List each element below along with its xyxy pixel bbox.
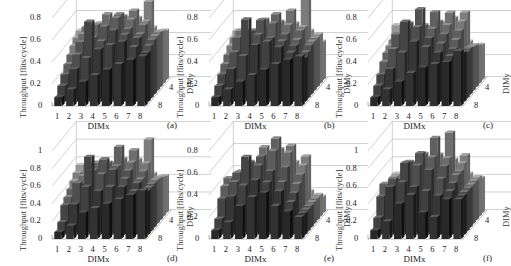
y-tick-label: 1 (38, 145, 42, 155)
y-axis-title: Throughput [flits/cycle] (334, 170, 344, 251)
chart-panel-a: 00.20.40.60.81234567848Throughput [flits… (0, 0, 158, 133)
y-tick-label: 0.2 (346, 215, 357, 225)
y-tick-label: 1 (354, 145, 358, 155)
x-tick-label: 6 (271, 111, 275, 121)
x-tick-label: 5 (102, 244, 106, 254)
x-tick-label: 6 (430, 244, 434, 254)
x-tick-label: 1 (55, 111, 59, 121)
y-tick-label: 0 (354, 100, 358, 110)
z-axis-title: DIMy (501, 73, 511, 94)
bars (211, 136, 326, 239)
y-tick-label: 0 (38, 233, 42, 243)
y-tick-label: 0.6 (30, 34, 41, 44)
x-tick-label: 7 (283, 244, 287, 254)
y-tick-label: 0.8 (346, 163, 357, 173)
x-tick-label: 1 (212, 111, 216, 121)
y-tick-label: 0.4 (187, 189, 198, 199)
x-tick-label: 5 (259, 111, 263, 121)
y-tick-label: 0.2 (30, 78, 41, 88)
x-tick-label: 3 (236, 111, 240, 121)
y-tick-label: 0.8 (187, 145, 198, 155)
y-tick-label: 0.6 (187, 34, 198, 44)
x-tick-label: 5 (418, 111, 422, 121)
bars (370, 7, 485, 106)
x-tick-label: 7 (442, 111, 446, 121)
y-tick-label: 0.4 (30, 198, 41, 208)
x-tick-label: 8 (295, 111, 299, 121)
x-tick-label: 3 (395, 111, 399, 121)
y-tick-label: 0.2 (346, 78, 357, 88)
y-tick-label: 0.8 (30, 12, 41, 22)
y-tick-label: 0.4 (30, 56, 41, 66)
x-axis-title: DIMx (404, 121, 426, 131)
x-tick-label: 8 (454, 244, 458, 254)
x-tick-label: 6 (114, 244, 118, 254)
y-tick-label: 0 (354, 233, 358, 243)
x-tick-label: 4 (248, 244, 252, 254)
y-tick-label: 0.4 (346, 56, 357, 66)
panel-label: (f) (483, 253, 492, 263)
x-tick-label: 4 (407, 244, 411, 254)
y-tick-label: 0.4 (187, 56, 198, 66)
z-axis-title: DIMy (501, 206, 511, 227)
y-tick-label: 0.2 (30, 215, 41, 225)
x-tick-label: 1 (371, 111, 375, 121)
x-axis-title: DIMx (88, 121, 110, 131)
z-tick-label: 8 (474, 100, 478, 110)
y-tick-label: 0.2 (187, 211, 198, 221)
x-tick-label: 5 (418, 244, 422, 254)
x-tick-label: 2 (383, 244, 387, 254)
y-tick-label: 0 (195, 233, 199, 243)
x-axis-title: DIMx (245, 121, 267, 131)
x-tick-label: 8 (138, 111, 142, 121)
x-tick-label: 3 (236, 244, 240, 254)
y-tick-label: 0 (195, 100, 199, 110)
z-tick-label: 4 (485, 215, 489, 225)
z-tick-label: 4 (485, 82, 489, 92)
x-tick-label: 2 (224, 244, 228, 254)
x-tick-label: 4 (407, 111, 411, 121)
x-tick-label: 2 (383, 111, 387, 121)
x-axis-title: DIMx (245, 254, 267, 264)
y-axis-title: Throughput [flits/cycle] (334, 37, 344, 118)
y-axis-title: Throughput [flits/cycle] (18, 37, 28, 118)
x-axis-title: DIMx (404, 254, 426, 264)
x-axis-title: DIMx (88, 254, 110, 264)
y-tick-label: 0.8 (346, 12, 357, 22)
y-tick-label: 0.8 (30, 163, 41, 173)
y-axis-title: Throughput [flits/cycle] (175, 170, 185, 251)
x-tick-label: 2 (224, 111, 228, 121)
y-tick-label: 0.2 (187, 78, 198, 88)
x-tick-label: 2 (67, 244, 71, 254)
x-tick-label: 1 (212, 244, 216, 254)
bars (54, 137, 169, 239)
x-tick-label: 4 (91, 244, 95, 254)
chart-panel-e: 00.20.40.60.81234567848Throughput [flits… (157, 133, 315, 266)
x-tick-label: 6 (114, 111, 118, 121)
x-tick-label: 1 (55, 244, 59, 254)
x-tick-label: 8 (295, 244, 299, 254)
y-tick-label: 0.4 (346, 198, 357, 208)
y-axis-title: Throughput [flits/cycle] (175, 37, 185, 118)
y-tick-label: 0.6 (30, 180, 41, 190)
x-tick-label: 3 (79, 244, 83, 254)
x-tick-label: 8 (138, 244, 142, 254)
y-axis-title: Throughput [flits/cycle] (18, 170, 28, 251)
x-tick-label: 6 (430, 111, 434, 121)
x-tick-label: 3 (395, 244, 399, 254)
y-tick-label: 0 (38, 100, 42, 110)
x-tick-label: 2 (67, 111, 71, 121)
x-tick-label: 1 (371, 244, 375, 254)
x-tick-label: 7 (442, 244, 446, 254)
bars (370, 130, 485, 239)
y-tick-label: 0.6 (346, 34, 357, 44)
x-tick-label: 5 (259, 244, 263, 254)
chart-panel-b: 00.20.40.60.81234567848Throughput [flits… (157, 0, 315, 133)
x-tick-label: 6 (271, 244, 275, 254)
y-tick-label: 0.6 (346, 180, 357, 190)
chart-panel-c: 00.20.40.60.81234567848Throughput [flits… (316, 0, 474, 133)
chart-panel-d: 00.20.40.60.811234567848Throughput [flit… (0, 133, 158, 266)
x-tick-label: 3 (79, 111, 83, 121)
chart-panel-f: 00.20.40.60.811234567848Throughput [flit… (316, 133, 474, 266)
